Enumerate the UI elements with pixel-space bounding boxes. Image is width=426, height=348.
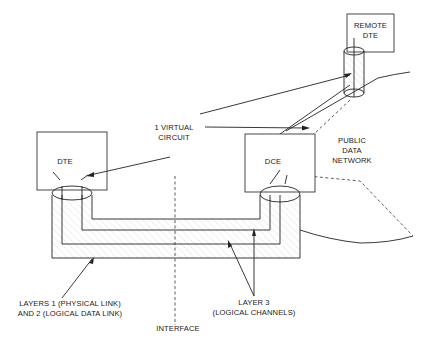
layers-trunk <box>52 195 300 258</box>
layers12-leader <box>62 259 92 298</box>
layer3-label-2: (LOGICAL CHANNELS) <box>213 308 296 317</box>
x25-virtual-circuit-diagram: REMOTE DTE DTE DCE <box>0 0 426 348</box>
remote-dte-label-2: DTE <box>363 31 379 40</box>
network-label-1: PUBLIC <box>338 136 366 145</box>
virtual-circuit-label-1: 1 VIRTUAL <box>154 123 193 132</box>
dce-node: DCE <box>245 134 315 192</box>
remote-dte-label-1: REMOTE <box>354 21 387 30</box>
vc-arrow-dce <box>205 127 306 128</box>
virtual-circuit-label-2: CIRCUIT <box>158 133 190 142</box>
layer3-label-1: LAYER 3 <box>238 298 269 307</box>
interface-label: INTERFACE <box>156 324 200 333</box>
dte-node: DTE <box>37 132 107 190</box>
network-label-2: DATA <box>342 146 362 155</box>
layers12-label-2: AND 2 (LOGICAL DATA LINK) <box>18 309 123 318</box>
network-label-3: NETWORK <box>332 156 372 165</box>
layers12-label-1: LAYERS 1 (PHYSICAL LINK) <box>19 299 121 308</box>
arrowhead-icon <box>302 126 310 131</box>
dte-label: DTE <box>57 157 73 166</box>
dce-label: DCE <box>265 157 281 166</box>
vc-line-upper <box>200 75 350 114</box>
vc-line-remote <box>280 85 350 134</box>
